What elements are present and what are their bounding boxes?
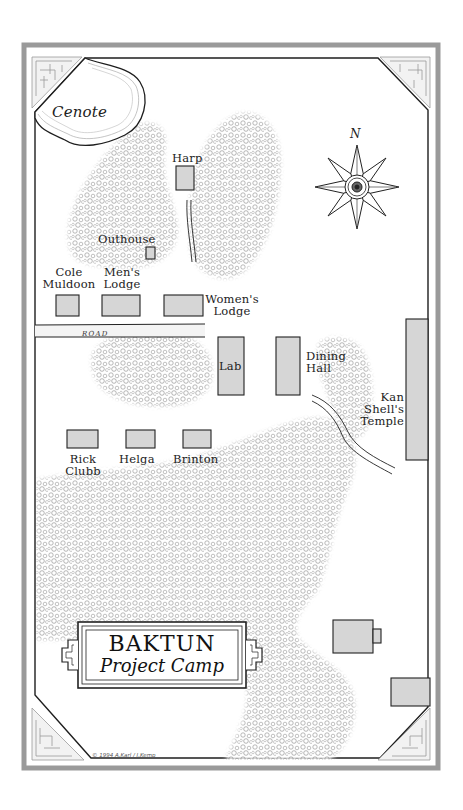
- label-womens-lodge: Women's Lodge: [204, 293, 260, 317]
- label-brinton: Brinton: [173, 453, 218, 465]
- label-outhouse: Outhouse: [98, 233, 156, 245]
- label-kan-shells-temple: Kan Shell's Temple: [356, 391, 404, 427]
- label-rick-clubb-line2: Clubb: [62, 465, 104, 477]
- label-temple-line3: Temple: [356, 415, 404, 427]
- building-unnamed-annex[interactable]: [373, 629, 381, 643]
- label-road: ROAD: [82, 328, 108, 340]
- label-dining-hall: Dining Hall: [306, 350, 346, 374]
- building-dining-hall[interactable]: [276, 337, 300, 395]
- label-cole-muldoon-line2: Muldoon: [38, 278, 100, 290]
- label-harp: Harp: [172, 152, 203, 164]
- map-credit: © 1994 A.Karl / J.Kemp: [92, 752, 156, 758]
- building-cole-muldoon[interactable]: [56, 295, 79, 316]
- label-cenote: Cenote: [52, 106, 107, 118]
- map-title-sub: Project Camp: [82, 656, 242, 676]
- building-unnamed-southeast[interactable]: [391, 678, 430, 706]
- building-unnamed-main[interactable]: [333, 620, 373, 653]
- building-outhouse[interactable]: [146, 247, 155, 259]
- label-mens-lodge-line2: Lodge: [98, 278, 146, 290]
- building-rick-clubb[interactable]: [67, 430, 98, 448]
- label-rick-clubb: Rick Clubb: [62, 453, 104, 477]
- map-title-main: BAKTUN: [82, 632, 242, 656]
- building-helga[interactable]: [126, 430, 155, 448]
- road[interactable]: [35, 324, 205, 337]
- label-mens-lodge: Men's Lodge: [98, 266, 146, 290]
- label-helga: Helga: [119, 453, 155, 465]
- building-mens-lodge[interactable]: [102, 295, 140, 316]
- building-brinton[interactable]: [183, 430, 211, 448]
- map-title: BAKTUN Project Camp: [82, 624, 242, 686]
- label-womens-lodge-line2: Lodge: [204, 305, 260, 317]
- label-compass-north: N: [350, 128, 361, 140]
- label-cole-muldoon: Cole Muldoon: [38, 266, 100, 290]
- building-womens-lodge[interactable]: [164, 295, 203, 316]
- label-lab: Lab: [219, 360, 241, 372]
- building-kan-shells-temple[interactable]: [406, 319, 428, 460]
- building-harp[interactable]: [176, 166, 194, 190]
- label-dining-hall-line2: Hall: [306, 362, 346, 374]
